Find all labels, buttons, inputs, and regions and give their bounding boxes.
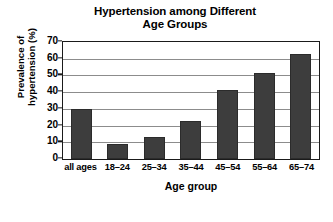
x-axis-tick-label: 45–54 <box>210 162 246 172</box>
x-axis-tick-label: 25–34 <box>136 162 172 172</box>
bar-slot <box>100 42 136 159</box>
chart-title-line-1: Hypertension among Different <box>30 5 320 18</box>
bar[interactable] <box>290 54 311 159</box>
bar[interactable] <box>180 121 201 159</box>
x-axis-tick-label: 18–24 <box>99 162 135 172</box>
x-axis-title: Age group <box>62 180 320 192</box>
chart-figure: Hypertension among Different Age Groups … <box>0 0 333 222</box>
x-axis-tick-labels: all ages18–2425–3435–4445–5455–6465–74 <box>62 162 320 172</box>
bar-slot <box>246 42 282 159</box>
x-axis-tick-label: 35–44 <box>173 162 209 172</box>
bar[interactable] <box>144 137 165 159</box>
bar-slot <box>283 42 319 159</box>
plot-area <box>62 41 320 160</box>
chart-title-line-2: Age Groups <box>30 18 320 31</box>
bar[interactable] <box>107 144 128 159</box>
bar[interactable] <box>217 90 238 159</box>
bar[interactable] <box>254 73 275 159</box>
bar-slot <box>63 42 99 159</box>
chart-title: Hypertension among Different Age Groups <box>30 5 320 31</box>
bar-series <box>63 42 319 159</box>
y-axis-tick-labels: 010203040506070 <box>34 41 58 160</box>
x-axis-tick-label: 55–64 <box>247 162 283 172</box>
bar[interactable] <box>71 109 92 159</box>
x-axis-tick-label: 65–74 <box>283 162 319 172</box>
y-axis-title-line-1: Prevalence of <box>15 8 26 126</box>
x-axis-tick-label: all ages <box>62 162 98 172</box>
bar-slot <box>210 42 246 159</box>
bar-slot <box>173 42 209 159</box>
bar-slot <box>136 42 172 159</box>
